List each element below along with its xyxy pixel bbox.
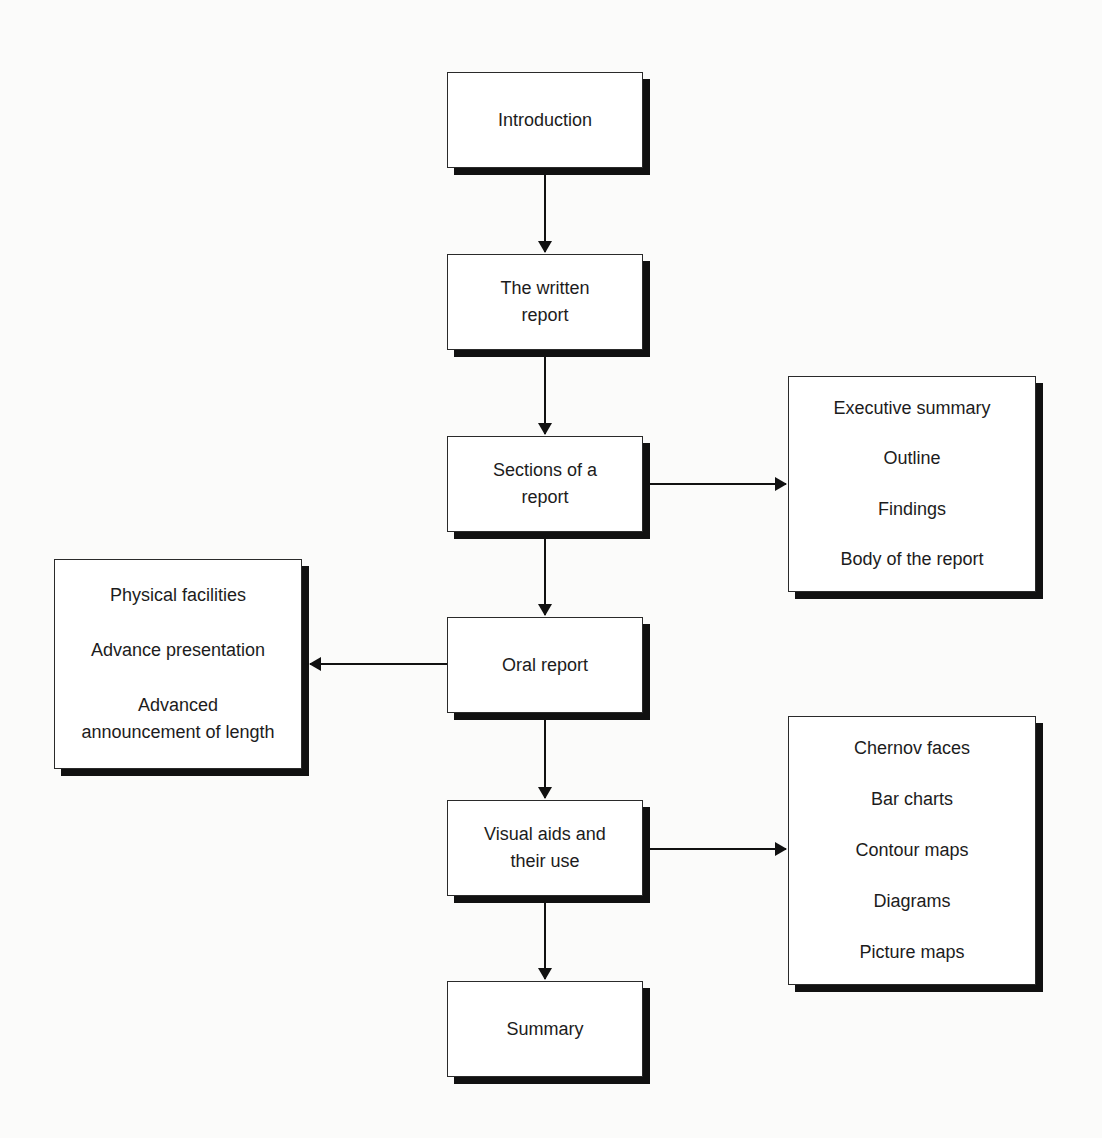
detail-item: Contour maps xyxy=(855,837,968,864)
detail-item: Outline xyxy=(883,445,940,472)
oral-report-label: Oral report xyxy=(502,652,588,679)
sections-label: Sections of a report xyxy=(484,457,606,511)
detail-item: Picture maps xyxy=(859,939,964,966)
written-report-label: The written report xyxy=(488,275,602,329)
introduction-box: Introduction xyxy=(447,72,643,168)
detail-item: Chernov faces xyxy=(854,735,970,762)
sections-box: Sections of a report xyxy=(447,436,643,532)
oral-report-box: Oral report xyxy=(447,617,643,713)
oral-details-box: Physical facilities Advance presentation… xyxy=(54,559,302,769)
visual-aids-label: Visual aids and their use xyxy=(478,821,612,875)
summary-box: Summary xyxy=(447,981,643,1077)
detail-item: Bar charts xyxy=(871,786,953,813)
detail-item: Physical facilities xyxy=(110,582,246,609)
written-report-box: The written report xyxy=(447,254,643,350)
detail-item: Executive summary xyxy=(833,395,990,422)
visual-aids-box: Visual aids and their use xyxy=(447,800,643,896)
detail-item: Diagrams xyxy=(873,888,950,915)
detail-item: Findings xyxy=(878,496,946,523)
sections-details-box: Executive summary Outline Findings Body … xyxy=(788,376,1036,592)
summary-label: Summary xyxy=(506,1016,583,1043)
detail-item: Advanced announcement of length xyxy=(79,692,277,746)
detail-item: Advance presentation xyxy=(91,637,265,664)
introduction-label: Introduction xyxy=(498,107,592,134)
detail-item: Body of the report xyxy=(840,546,983,573)
visual-details-box: Chernov faces Bar charts Contour maps Di… xyxy=(788,716,1036,985)
